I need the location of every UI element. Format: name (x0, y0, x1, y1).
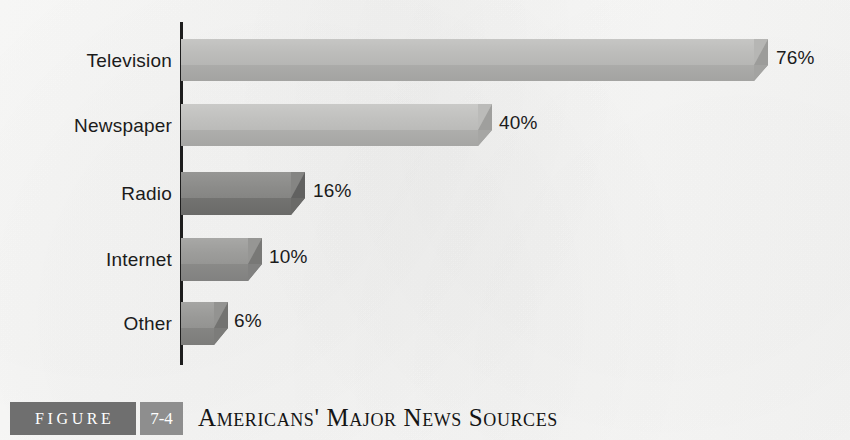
figure-number-badge: 7-4 (140, 402, 183, 435)
value-label-radio: 16% (313, 180, 352, 202)
bar-face-bottom-radio (181, 198, 291, 215)
bar-row-radio: Radio 16% (0, 172, 850, 215)
value-label-newspaper: 40% (499, 112, 538, 134)
figure-bar-chart: Television 76% Newspaper (0, 0, 850, 440)
bar-face-bottom-television (181, 65, 754, 81)
bar-face-bottom-newspaper (181, 130, 478, 146)
figure-title: Americans' Major News Sources (198, 400, 558, 436)
category-label-radio: Radio (121, 183, 172, 205)
value-label-other: 6% (234, 310, 262, 332)
bar-row-internet: Internet 10% (0, 238, 850, 281)
bar-face-bottom-internet (181, 264, 248, 281)
bar-row-newspaper: Newspaper 40% (0, 104, 850, 146)
bar-row-other: Other 6% (0, 302, 850, 345)
category-label-internet: Internet (106, 249, 172, 271)
bar-bevel-other (214, 302, 234, 345)
bar-face-top-television (181, 39, 768, 65)
bar-face-top-radio (181, 172, 305, 198)
category-label-television: Television (87, 50, 172, 72)
category-label-other: Other (123, 313, 172, 335)
bar-bevel-television (754, 39, 774, 81)
figure-caption: FIGURE 7-4 Americans' Major News Sources (0, 396, 850, 440)
category-label-newspaper: Newspaper (74, 115, 172, 137)
value-label-television: 76% (776, 47, 815, 69)
bar-bevel-newspaper (478, 104, 498, 146)
figure-word-badge: FIGURE (10, 402, 136, 435)
bar-face-top-newspaper (181, 104, 492, 130)
bar-row-television: Television 76% (0, 39, 850, 81)
value-label-internet: 10% (269, 246, 308, 268)
bar-bevel-radio (291, 172, 311, 215)
chart-plot-area: Television 76% Newspaper (0, 0, 850, 375)
bar-bevel-internet (248, 238, 268, 281)
bar-face-bottom-other (181, 328, 214, 345)
